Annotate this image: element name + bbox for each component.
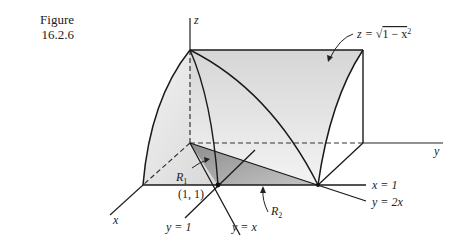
x-axis-label: x <box>112 213 119 227</box>
point-1-1-label: (1, 1) <box>178 187 204 201</box>
region-r2-label: R2 <box>270 204 282 220</box>
line-x-eq-1-label: x = 1 <box>371 178 397 192</box>
line-y-eq-1-label: y = 1 <box>165 220 191 234</box>
point-1-1 <box>216 183 221 188</box>
r2-leader <box>263 190 268 212</box>
figure-diagram: z y x z = √1 − x2 R1 R2 (1, 1) x = 1 y =… <box>0 0 463 250</box>
x-axis <box>110 185 143 215</box>
line-y-eq-x-label: y = x <box>231 220 257 234</box>
point-1-2 <box>316 183 320 187</box>
surface-equation-label: z = √1 − x2 <box>356 27 411 42</box>
y-axis-label: y <box>433 144 440 158</box>
z-axis-label: z <box>193 13 199 27</box>
line-y-eq-2x-label: y = 2x <box>371 195 403 209</box>
